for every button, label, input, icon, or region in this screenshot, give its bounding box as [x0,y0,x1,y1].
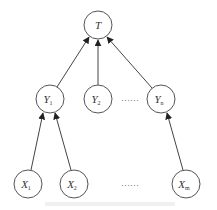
ellipsis-bottom: …… [121,178,139,188]
node-x2: X2 [60,170,88,198]
node-y1: Y1 [36,85,64,113]
tree-diagram: T Y1 Y2 …… Yn X1 X2 …… Xm [0,0,217,210]
node-x2-sub: 2 [74,185,77,191]
node-xm: Xm [172,170,200,198]
node-y2-sub: 2 [98,100,101,106]
faint-caption [45,202,175,206]
node-t: T [84,11,112,39]
node-y1-sub: 1 [50,100,53,106]
edge-xm-yn [167,113,183,170]
node-t-label: T [95,19,102,31]
node-yn-sub: n [161,100,164,106]
node-yn: Yn [147,85,175,113]
ellipsis-middle: …… [121,93,139,103]
edge-yn-t [107,37,152,88]
node-x1-sub: 1 [28,185,31,191]
node-y2: Y2 [84,85,112,113]
edge-x2-y1 [55,113,71,170]
node-x1: X1 [14,170,42,198]
edge-x1-y1 [31,113,43,170]
edge-y1-t [57,37,89,87]
node-xm-sub: m [185,185,190,191]
